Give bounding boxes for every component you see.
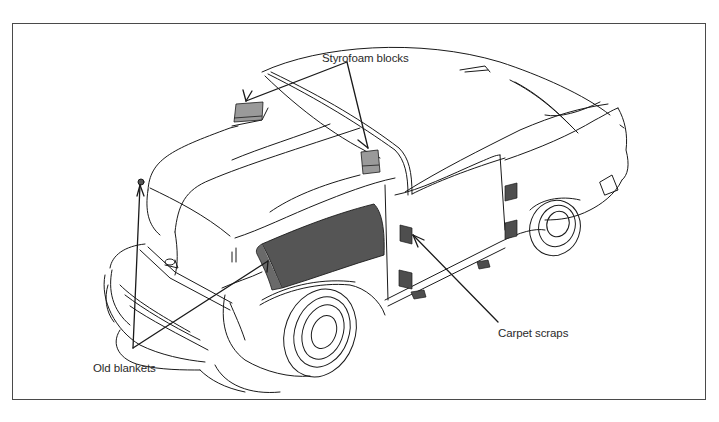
label-styrofoam-blocks: Styrofoam blocks xyxy=(322,52,409,64)
carpet-scrap-1 xyxy=(400,225,412,244)
leader-styrofoam-left xyxy=(246,62,347,101)
leader-blanket-headlight xyxy=(133,185,140,348)
old-blanket xyxy=(256,204,384,290)
rear-wheel xyxy=(522,193,588,263)
carpet-scrap-2 xyxy=(399,270,412,289)
styrofoam-block-left xyxy=(234,102,263,122)
carpet-scrap-3 xyxy=(505,183,517,201)
carpet-scrap-5 xyxy=(411,290,426,299)
leader-carpet-scraps xyxy=(413,235,498,322)
carpet-scrap-6 xyxy=(477,260,490,269)
roof xyxy=(262,47,610,195)
label-old-blankets: Old blankets xyxy=(93,362,156,374)
label-carpet-scraps: Carpet scraps xyxy=(498,327,568,339)
styrofoam-block-right xyxy=(361,150,380,174)
front-wheel xyxy=(260,279,385,388)
leader-blanket-fender xyxy=(133,261,268,348)
leader-styrofoam-right xyxy=(347,62,368,148)
carpet-scrap-4 xyxy=(505,220,517,239)
